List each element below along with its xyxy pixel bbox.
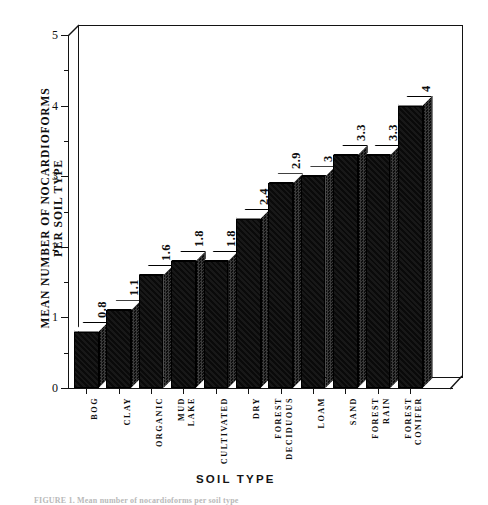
x-axis-category-label: CULTIVATED <box>220 397 229 464</box>
bar[interactable] <box>74 322 99 388</box>
bar-front-face <box>268 183 293 388</box>
x-axis-category-label: BOG <box>90 397 99 420</box>
x-axis-category-label: LOAM <box>317 397 326 428</box>
x-axis-category-label: FOREST <box>404 397 413 439</box>
x-axis-category-label: CONIFER <box>414 397 423 445</box>
bar[interactable] <box>139 265 164 388</box>
bar-value-label: 3.3 <box>354 124 369 141</box>
bar[interactable] <box>236 209 261 388</box>
x-axis-category-label: LAKE <box>187 397 196 426</box>
bars-layer: 0.81.11.61.81.82.42.933.33.34 <box>68 35 453 388</box>
y-axis-tick-major <box>61 176 68 177</box>
x-axis-category-label: DECIDUOUS <box>285 397 294 460</box>
x-axis-tick <box>248 388 249 394</box>
x-axis-title: SOIL TYPE <box>196 473 276 485</box>
figure-bar-chart: MEAN NUMBER OF NOCARDIOFORMS PER SOIL TY… <box>0 0 488 505</box>
bar[interactable] <box>106 300 131 388</box>
x-axis-category-label: ORGANIC <box>155 397 164 447</box>
bar[interactable] <box>333 145 358 388</box>
x-axis-tick <box>151 388 152 394</box>
bar[interactable] <box>301 166 326 388</box>
x-axis-tick <box>378 388 379 394</box>
y-axis-tick-label: 1 <box>52 310 58 325</box>
bar[interactable] <box>204 251 229 388</box>
x-axis-tick <box>86 388 87 394</box>
x-axis-tick <box>183 388 184 394</box>
x-axis-tick <box>345 388 346 394</box>
bar-front-face <box>301 176 326 388</box>
x-axis-category-label: MUD <box>177 397 186 421</box>
y-axis-tick-label: 3 <box>52 169 58 184</box>
y-axis-tick-label: 2 <box>52 239 58 254</box>
bar-value-label: 1.8 <box>192 230 207 247</box>
y-axis-tick-label: 0 <box>52 381 58 396</box>
x-axis-category-label: DRY <box>252 397 261 419</box>
x-axis-tick <box>281 388 282 394</box>
y-axis-tick-label: 5 <box>52 28 58 43</box>
y-axis-tick-label: 4 <box>52 98 58 113</box>
bar[interactable] <box>268 173 293 388</box>
y-axis-tick-major <box>61 317 68 318</box>
figure-caption: FIGURE 1. Mean number of nocardioforms p… <box>34 496 464 505</box>
bar[interactable] <box>171 251 196 388</box>
x-axis-tick <box>119 388 120 394</box>
bar-front-face <box>171 261 196 388</box>
y-axis-tick-major <box>61 388 68 389</box>
bar-front-face <box>106 310 131 388</box>
x-axis-category-label: CLAY <box>123 397 132 425</box>
bar[interactable] <box>366 145 391 388</box>
x-axis-tick <box>410 388 411 394</box>
bar-front-face <box>204 261 229 388</box>
y-axis-title: MEAN NUMBER OF NOCARDIOFORMS PER SOIL TY… <box>39 87 66 328</box>
bar-front-face <box>333 155 358 388</box>
bar-value-label: 4 <box>419 85 434 92</box>
y-axis-tick-major <box>61 106 68 107</box>
bar-front-face <box>366 155 391 388</box>
x-axis-category-label: RAIN <box>382 397 391 424</box>
y-axis-tick-major <box>61 247 68 248</box>
bar-front-face <box>236 219 261 388</box>
bar-front-face <box>139 275 164 388</box>
x-axis-tick <box>216 388 217 394</box>
y-axis-tick-major <box>61 35 68 36</box>
bar-front-face <box>398 106 423 388</box>
bar-side-face <box>423 96 433 388</box>
bar-front-face <box>74 332 99 388</box>
x-axis-category-label: FOREST <box>371 397 380 439</box>
x-axis-category-label: FOREST <box>274 397 283 439</box>
x-axis-category-label: SAND <box>349 397 358 425</box>
bar[interactable] <box>398 96 423 388</box>
x-axis-tick <box>313 388 314 394</box>
